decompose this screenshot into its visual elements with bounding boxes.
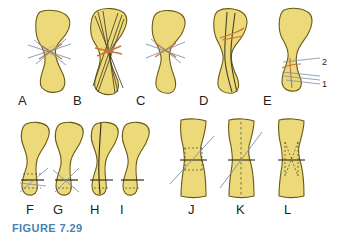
panel-l-illustration: [266, 118, 318, 200]
panel-label-c: C: [136, 94, 146, 107]
panel-label-b: B: [73, 94, 82, 107]
figure-caption: FIGURE 7.29: [12, 222, 82, 234]
panel-label-a: A: [18, 94, 27, 107]
panel-i-illustration: [115, 120, 157, 198]
panel-label-e: E: [263, 94, 272, 107]
panel-label-j: J: [188, 203, 195, 216]
callout-number-2: 2: [322, 58, 327, 67]
panel-j-illustration: [168, 118, 220, 200]
panel-label-k: K: [236, 203, 245, 216]
panel-a-illustration: [22, 8, 84, 94]
panel-d-illustration: [202, 6, 258, 94]
panel-label-i: I: [120, 203, 124, 216]
panel-e-illustration: [270, 6, 339, 94]
panel-label-g: G: [53, 203, 63, 216]
panel-label-f: F: [26, 203, 34, 216]
panel-label-h: H: [90, 203, 100, 216]
panel-label-d: D: [199, 94, 209, 107]
panel-b-illustration: [77, 6, 139, 96]
panel-c-illustration: [141, 8, 199, 94]
panel-label-l: L: [284, 203, 291, 216]
callout-number-1: 1: [322, 80, 327, 89]
panel-k-illustration: [216, 118, 268, 200]
figure-container: A B: [0, 0, 339, 241]
